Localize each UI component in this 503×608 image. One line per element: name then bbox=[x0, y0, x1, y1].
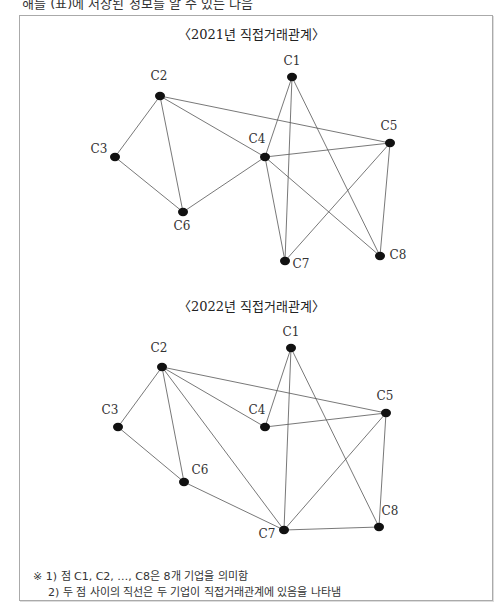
node-C2 bbox=[155, 92, 165, 100]
node-C2 bbox=[157, 363, 167, 371]
edge-C6-C4 bbox=[183, 157, 265, 212]
node-label-C4: C4 bbox=[249, 403, 266, 417]
node-label-C6: C6 bbox=[192, 463, 209, 477]
node-label-C8: C8 bbox=[382, 504, 399, 518]
edge-C2-C4 bbox=[162, 367, 265, 427]
node-C4 bbox=[260, 153, 270, 161]
edge-C1-C4 bbox=[265, 348, 291, 427]
edge-C4-C7 bbox=[265, 157, 285, 261]
node-label-C6: C6 bbox=[174, 219, 191, 233]
edge-C2-C4 bbox=[160, 96, 265, 157]
edge-C2-C3 bbox=[115, 96, 160, 157]
edge-C4-C8 bbox=[265, 157, 380, 256]
note-line-1: ※ 1) 점 C1, C2, …, C8은 8개 기업을 의미함 bbox=[33, 567, 248, 583]
edge-C1-C7 bbox=[285, 77, 292, 261]
node-C4 bbox=[260, 423, 270, 431]
node-C5 bbox=[385, 139, 395, 147]
node-C5 bbox=[381, 409, 391, 417]
edge-C3-C6 bbox=[118, 427, 184, 482]
node-label-C7: C7 bbox=[259, 527, 276, 541]
diagram-2022: C1C2C3C4C5C6C7C8 bbox=[102, 325, 399, 541]
edge-C2-C5 bbox=[162, 367, 386, 413]
node-label-C3: C3 bbox=[91, 142, 108, 156]
node-C1 bbox=[286, 344, 296, 352]
edge-C5-C7 bbox=[285, 143, 390, 261]
node-label-C1: C1 bbox=[284, 54, 301, 68]
edge-C4-C5 bbox=[265, 413, 386, 427]
edge-C2-C6 bbox=[162, 367, 184, 482]
node-label-C2: C2 bbox=[151, 341, 168, 355]
node-label-C5: C5 bbox=[381, 119, 398, 133]
node-C8 bbox=[374, 523, 384, 531]
edge-C5-C8 bbox=[380, 143, 390, 256]
edge-C1-C7 bbox=[284, 348, 291, 530]
edge-C2-C5 bbox=[160, 96, 390, 143]
edge-C7-C8 bbox=[284, 527, 379, 530]
edge-C2-C3 bbox=[118, 367, 162, 427]
diagram-2021: C1C2C3C4C5C6C7C8 bbox=[91, 54, 407, 271]
edge-C2-C6 bbox=[160, 96, 183, 212]
edge-C3-C6 bbox=[115, 157, 183, 212]
node-label-C7: C7 bbox=[293, 257, 310, 271]
node-C8 bbox=[375, 252, 385, 260]
node-label-C3: C3 bbox=[102, 403, 119, 417]
node-C1 bbox=[287, 73, 297, 81]
note-line-2: 2) 두 점 사이의 직선은 두 기업이 직접거래관계에 있음을 나타냄 bbox=[48, 583, 341, 599]
edge-C6-C7 bbox=[184, 482, 284, 530]
edge-C5-C7 bbox=[284, 413, 386, 530]
edge-C1-C8 bbox=[292, 77, 380, 256]
node-C6 bbox=[179, 478, 189, 486]
node-label-C8: C8 bbox=[390, 248, 407, 262]
node-C7 bbox=[280, 257, 290, 265]
node-label-C4: C4 bbox=[249, 132, 266, 146]
edge-C4-C1 bbox=[265, 77, 292, 157]
node-C3 bbox=[113, 423, 123, 431]
node-label-C1: C1 bbox=[283, 325, 300, 339]
node-label-C5: C5 bbox=[377, 389, 394, 403]
node-C6 bbox=[178, 208, 188, 216]
node-C7 bbox=[279, 526, 289, 534]
edge-C2-C7 bbox=[162, 367, 284, 530]
node-label-C2: C2 bbox=[151, 69, 168, 83]
edge-C1-C8 bbox=[291, 348, 379, 527]
node-C3 bbox=[110, 153, 120, 161]
network-diagrams: C1C2C3C4C5C6C7C8C1C2C3C4C5C6C7C8 bbox=[0, 0, 503, 608]
